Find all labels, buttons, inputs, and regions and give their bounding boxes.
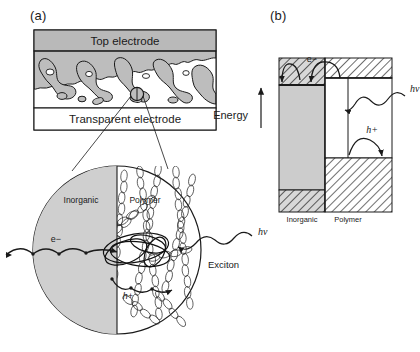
inorganic-band-gap	[279, 85, 325, 190]
figure-canvas: Top electrode	[0, 0, 420, 352]
polymer-label-inset: Polymer	[129, 195, 160, 205]
inorganic-conduction-band	[279, 58, 325, 85]
transparent-electrode-label: Transparent electrode	[69, 113, 181, 125]
inorganic-label-inset: Inorganic	[64, 195, 100, 205]
polymer-homo-band	[325, 158, 392, 212]
photon-label-band: hν	[410, 83, 420, 94]
active-layer-network	[34, 51, 216, 108]
device-cross-section: Top electrode	[34, 30, 216, 130]
exciton-label: Exciton	[208, 259, 239, 270]
polymer-label-band: Polymer	[334, 215, 362, 224]
top-electrode-label: Top electrode	[90, 35, 159, 47]
energy-band-diagram: Energy e−	[213, 54, 420, 224]
magnified-inset-circle: e− h+ hν Inorganic Polymer Exciton	[6, 164, 268, 334]
electron-label-inset: e−	[51, 234, 61, 244]
hole-label-inset: h+	[123, 291, 133, 301]
energy-axis-label: Energy	[213, 109, 248, 121]
electron-label-band: e−	[307, 54, 317, 64]
photon-label-inset: hν	[258, 226, 268, 237]
hole-label-band: h+	[366, 124, 378, 135]
polymer-band-gap	[325, 78, 392, 158]
polymer-lumo-band	[325, 58, 392, 78]
figure-root: (a) (b)	[0, 0, 420, 352]
inorganic-valence-band	[279, 190, 325, 212]
inorganic-label-band: Inorganic	[287, 215, 318, 224]
